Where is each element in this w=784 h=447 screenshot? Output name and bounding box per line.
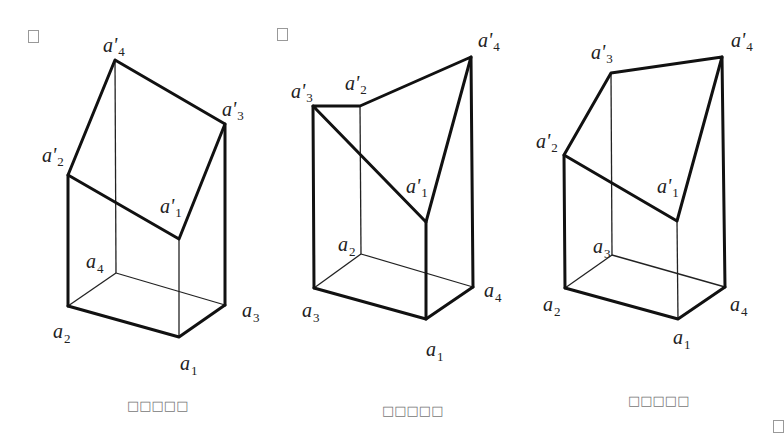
caption-right: □□□□□ xyxy=(628,393,689,408)
vertex-label-left-ap1: a'1 xyxy=(160,195,182,220)
vertex-label-middle-a1: a1 xyxy=(426,338,444,364)
top-face xyxy=(68,60,225,239)
vertex-label-right-ap4: a'4 xyxy=(731,29,753,54)
figure-right xyxy=(564,57,725,319)
figure-left xyxy=(68,60,225,337)
caption-middle: □□□□□ xyxy=(382,403,443,418)
edge-a2-a2p xyxy=(564,155,565,288)
vertex-label-left-a4: a4 xyxy=(86,250,104,276)
vertex-label-right-a2: a2 xyxy=(543,293,561,319)
placeholder-box-icon xyxy=(28,30,39,43)
vertex-label-middle-a4: a4 xyxy=(484,279,502,305)
vertex-label-middle-a2: a2 xyxy=(338,233,356,259)
caption-left: □□□□□ xyxy=(127,398,188,413)
edge-a4-a4p xyxy=(115,60,116,273)
edge-a3-a3p xyxy=(313,106,314,288)
vertex-label-right-ap3: a'3 xyxy=(591,41,613,66)
vertex-label-middle-ap4: a'4 xyxy=(478,29,500,54)
vertex-label-right-a3: a3 xyxy=(593,235,611,261)
vertex-label-right-a4: a4 xyxy=(730,293,748,319)
base-front xyxy=(314,287,473,319)
edge-a4-a4p xyxy=(471,57,473,287)
vertex-label-left-ap2: a'2 xyxy=(42,144,64,169)
edge-a2-a3 xyxy=(314,254,361,288)
vertex-label-left-a1: a1 xyxy=(180,352,198,378)
vertex-label-right-ap2: a'2 xyxy=(536,130,558,155)
top-face xyxy=(564,57,722,221)
base-front xyxy=(68,305,225,337)
top-face xyxy=(313,57,471,222)
edge-a2-a2p xyxy=(360,106,361,254)
vertex-label-middle-ap2: a'2 xyxy=(345,72,367,97)
vertex-label-left-a2: a2 xyxy=(53,320,71,346)
edge-a2-a4 xyxy=(361,254,473,287)
placeholder-box-icon xyxy=(277,28,288,41)
vertex-label-left-ap3: a'3 xyxy=(222,98,244,123)
vertex-label-right-ap1: a'1 xyxy=(657,175,679,200)
vertex-label-middle-a3: a3 xyxy=(302,299,320,325)
edge-a3-a4 xyxy=(612,255,725,287)
vertex-label-left-a3: a3 xyxy=(242,299,260,325)
edge-a4-a4p xyxy=(722,57,725,287)
edge-a4-a2 xyxy=(68,273,116,306)
edge-a1-a1p xyxy=(677,221,678,319)
edge-a4-a3 xyxy=(116,273,225,305)
vertex-label-middle-ap3: a'3 xyxy=(291,80,313,105)
base-front xyxy=(565,287,725,319)
vertex-label-left-ap4: a'4 xyxy=(103,34,125,59)
placeholder-box-icon xyxy=(773,420,784,433)
figure-middle xyxy=(313,57,473,319)
edge-a3-a3p xyxy=(611,73,612,255)
vertex-label-middle-ap1: a'1 xyxy=(406,175,428,200)
vertex-label-right-a1: a1 xyxy=(673,326,691,352)
